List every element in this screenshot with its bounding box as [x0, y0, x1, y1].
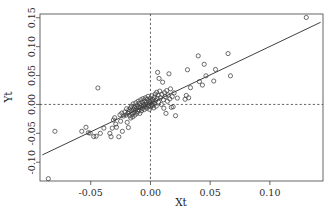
data-point — [184, 93, 188, 97]
x-tick-label: 0.10 — [259, 187, 280, 198]
data-point — [168, 97, 172, 101]
data-point — [187, 96, 191, 100]
data-point — [126, 125, 130, 129]
data-point — [117, 135, 121, 139]
data-point — [304, 15, 308, 19]
data-point — [202, 62, 206, 66]
data-point — [162, 106, 166, 110]
data-point — [168, 87, 172, 91]
reference-lines — [40, 14, 323, 181]
data-point — [102, 126, 106, 130]
data-point — [98, 131, 102, 135]
data-point — [185, 68, 189, 72]
data-point — [196, 54, 200, 58]
y-tick-label: -0.05 — [26, 121, 37, 145]
data-point — [161, 80, 165, 84]
data-point — [110, 126, 114, 130]
x-tick-label: -0.05 — [79, 187, 103, 198]
data-point — [53, 129, 57, 133]
data-points — [46, 15, 308, 180]
data-point — [173, 114, 177, 118]
data-point — [96, 86, 100, 90]
data-point — [125, 120, 129, 124]
plot-canvas: -0.050.000.050.10-0.10-0.050.000.050.100… — [0, 0, 332, 211]
plot-frame — [40, 14, 323, 181]
data-point — [164, 111, 168, 115]
y-tick-label: 0.15 — [26, 7, 37, 28]
y-tick-label: 0.00 — [26, 94, 37, 115]
data-point — [157, 76, 161, 80]
data-point — [80, 129, 84, 133]
y-tick-label: 0.05 — [26, 65, 37, 86]
data-point — [84, 125, 88, 129]
x-tick-label: 0.00 — [140, 187, 161, 198]
data-point — [228, 74, 232, 78]
scatter-plot-figure: -0.050.000.050.10-0.10-0.050.000.050.100… — [0, 0, 332, 211]
data-point — [120, 129, 124, 133]
y-tick-label: -0.10 — [26, 150, 37, 174]
y-axis-title: Yt — [2, 91, 14, 104]
data-point — [213, 67, 217, 71]
data-point — [167, 72, 171, 76]
fit-line — [42, 22, 320, 155]
x-axis-title: Xt — [175, 196, 187, 208]
data-point — [175, 96, 179, 100]
data-point — [119, 119, 123, 123]
data-point — [226, 51, 230, 55]
data-point — [165, 99, 169, 103]
data-point — [188, 86, 192, 90]
regression-line — [42, 22, 320, 155]
data-point — [46, 177, 50, 181]
x-tick-label: 0.05 — [200, 187, 221, 198]
y-tick-label: 0.10 — [26, 36, 37, 57]
data-point — [200, 83, 204, 87]
data-point — [212, 79, 216, 83]
data-point — [156, 70, 160, 74]
